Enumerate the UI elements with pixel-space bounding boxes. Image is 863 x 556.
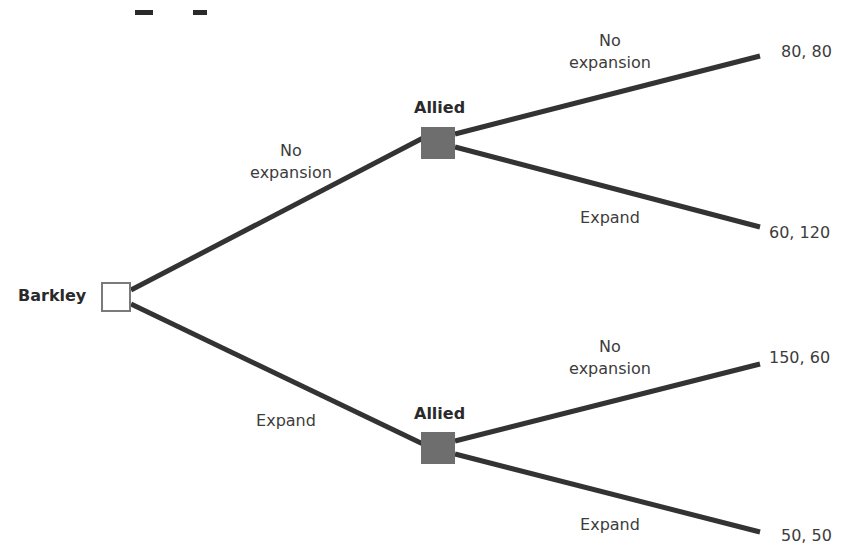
payoff-no-expansion-no-expansion: 80, 80 [781,42,832,61]
payoff-expand-no-expansion: 150, 60 [769,348,830,367]
action-label-line: expansion [555,358,665,380]
action-label-line: expansion [555,52,665,74]
action-label-allied2-no-expansion: No expansion [555,336,665,380]
action-label-line: No [555,336,665,358]
action-label-line: expansion [236,162,346,184]
action-label-allied2-expand: Expand [560,514,660,536]
action-label-line: No [555,30,665,52]
player-label-allied-lower: Allied [414,404,465,423]
allied-decision-node-upper [421,127,455,159]
player-label-allied-upper: Allied [414,98,465,117]
action-label-allied1-no-expansion: No expansion [555,30,665,74]
game-tree-diagram: Barkley No expansion Expand Allied Allie… [0,0,863,556]
root-decision-node [101,282,131,312]
allied-decision-node-lower [421,432,455,464]
action-label-barkley-no-expansion: No expansion [236,140,346,184]
action-label-allied1-expand: Expand [560,207,660,229]
tree-edges [0,0,863,556]
action-label-line: No [236,140,346,162]
action-label-barkley-expand: Expand [236,410,336,432]
player-label-barkley: Barkley [18,286,86,305]
payoff-no-expansion-expand: 60, 120 [769,223,830,242]
payoff-expand-expand: 50, 50 [781,526,832,545]
